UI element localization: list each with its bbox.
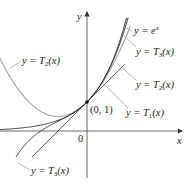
label-t3-upper: y = T3(x) (136, 47, 174, 59)
taylor-polynomials-diagram: y x 0 (0, 1) y = ex y = T3(x) y = T2(x) … (0, 0, 192, 191)
leader-t3-upper (124, 36, 136, 47)
leader-t2-left (10, 62, 20, 68)
label-t3-lower: y = T3(x) (31, 166, 69, 178)
label-t2-right: y = T2(x) (136, 80, 174, 92)
label-t1: y = T1(x) (126, 108, 164, 120)
curve-t3 (16, 18, 128, 157)
leader-t2-right (118, 64, 136, 80)
x-axis-label: x (177, 136, 182, 147)
y-axis-label: y (77, 12, 82, 23)
curve-t2 (0, 26, 131, 117)
label-t2-left: y = T2(x) (22, 56, 60, 68)
point-label: (0, 1) (90, 105, 113, 116)
plot-area (0, 0, 192, 191)
leader-t3-lower (18, 163, 30, 170)
label-exp: y = ex (134, 25, 159, 37)
origin-label: 0 (78, 134, 83, 145)
point-0-1 (85, 100, 89, 104)
